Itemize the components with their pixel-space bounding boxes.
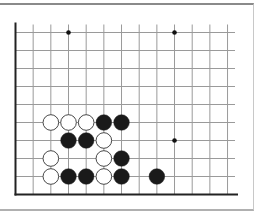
black-stone: [96, 115, 112, 131]
white-stone: [78, 115, 94, 131]
white-stone: [43, 169, 59, 185]
black-stone: [114, 115, 130, 131]
black-stone: [61, 133, 77, 149]
white-stone: [43, 151, 59, 167]
star-point-icon: [66, 30, 71, 35]
white-stone: [96, 151, 112, 167]
black-stone: [114, 169, 130, 185]
white-stone: [43, 115, 59, 131]
black-stone: [78, 169, 94, 185]
star-point-icon: [172, 138, 177, 143]
white-stone: [61, 115, 77, 131]
black-stone: [149, 169, 165, 185]
go-board: [0, 0, 257, 212]
black-stone: [78, 133, 94, 149]
black-stone: [61, 169, 77, 185]
star-point-icon: [172, 30, 177, 35]
black-stone: [114, 151, 130, 167]
white-stone: [96, 133, 112, 149]
white-stone: [96, 169, 112, 185]
